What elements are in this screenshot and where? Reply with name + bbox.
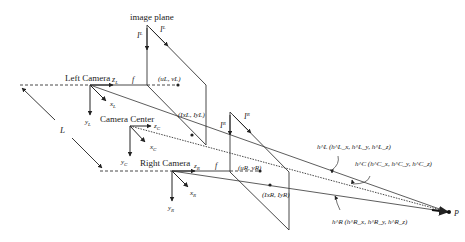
right-plane-iy-label: IR bbox=[219, 121, 226, 130]
right-focal-label: f bbox=[215, 161, 219, 170]
right-plane-ix-label: IR bbox=[243, 112, 250, 121]
ray-right bbox=[172, 171, 448, 212]
center-z-axis-label: zC bbox=[153, 122, 161, 131]
left-focal-label: f bbox=[132, 75, 136, 84]
baseline-arrow-up bbox=[22, 88, 55, 120]
point-p-label: P bbox=[453, 209, 459, 218]
left-image-point-label: (IxL, IyL) bbox=[178, 111, 205, 119]
ray-right-label: h^R (h^R_x, h^R_y, h^R_z) bbox=[332, 218, 408, 226]
baseline-arrow-down bbox=[72, 138, 102, 168]
left-x-axis-label: xL bbox=[109, 100, 116, 109]
right-image-point-label: (IxR, IyR) bbox=[262, 191, 290, 199]
ray-left-label: h^L (h^L_x, h^L_y, h^L_z) bbox=[317, 143, 391, 151]
center-y-axis-label: yC bbox=[120, 158, 128, 167]
right-z-axis-label: zR bbox=[193, 162, 200, 171]
left-camera-label: Left Camera bbox=[65, 73, 110, 83]
left-principal-label: (uL, vL) bbox=[158, 75, 181, 83]
left-principal-point bbox=[176, 83, 179, 86]
right-camera-label: Right Camera bbox=[140, 158, 190, 168]
image-plane-label: image plane bbox=[130, 12, 174, 22]
baseline-label: L bbox=[59, 125, 65, 135]
right-x-axis-label: xR bbox=[189, 189, 196, 198]
center-camera-label: Camera Center bbox=[100, 114, 154, 124]
center-camera-axes bbox=[130, 126, 151, 156]
left-z-axis-label: zL bbox=[111, 75, 118, 85]
left-plane-ix-label: IL bbox=[159, 25, 166, 34]
left-image-point bbox=[190, 133, 193, 136]
point-p-arrow bbox=[432, 210, 448, 212]
point-p bbox=[447, 210, 451, 214]
left-y-axis-label: yL bbox=[84, 118, 91, 127]
diagram-canvas: image plane Left Camera Camera Center Ri… bbox=[0, 0, 465, 242]
ray-center-label: h^C (h^C_x, h^C_y, h^C_z) bbox=[355, 160, 433, 168]
right-plane-x-axis bbox=[233, 115, 251, 133]
left-plane-iy-label: IL bbox=[136, 31, 143, 40]
center-x-axis-label: xC bbox=[149, 143, 157, 152]
stereo-camera-diagram: image plane Left Camera Camera Center Ri… bbox=[0, 0, 465, 242]
right-principal-label: (uR, vR) bbox=[238, 164, 262, 172]
right-image-point bbox=[268, 183, 271, 186]
left-plane-x-axis bbox=[150, 28, 168, 46]
right-y-axis-label: yR bbox=[167, 204, 174, 213]
